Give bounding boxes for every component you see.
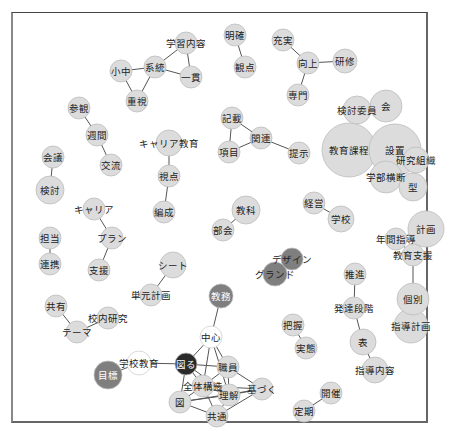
node-label: 開催 [321,388,341,399]
node-label: 理解 [219,390,239,401]
node-label: 関連 [251,133,271,144]
node-label: 職員 [218,362,238,373]
node-label: 系統 [145,62,165,73]
node-label: 教科 [236,205,256,216]
node-label: 参観 [69,103,89,114]
node-label: 一貫 [181,72,201,83]
node-label: 編成 [154,207,174,218]
node-label: 教育支援 [393,250,433,261]
node-label: 学校 [331,214,351,225]
node-label: 支援 [89,265,109,276]
node-label: 小中 [111,66,131,77]
node-label: 提示 [289,148,309,159]
node-label: キャリア [74,204,114,215]
node-label: 交流 [101,160,121,171]
node-label: 個別 [403,294,423,305]
node-label: 把握 [283,320,303,331]
node-label: 重視 [127,96,147,107]
node-label: 連携 [40,259,60,270]
node-label: 会議 [43,152,63,163]
node-label: 発達段階 [334,303,374,314]
node-label: 計画 [416,224,436,235]
node-label: 指導計画 [391,321,431,332]
node-label: キャリア教育 [139,138,199,149]
node-label: 週間 [87,130,107,141]
node-label: 教育課程 [329,145,369,156]
node-label: グランド [255,269,295,280]
node-label: 教務 [211,291,231,302]
node-label: 学校教育 [119,358,159,369]
node-label: 共通 [207,411,227,422]
node-label: 経営 [304,198,324,209]
node-label: 全体構造 [183,381,223,392]
node-label: 研究組織 [396,155,436,166]
node-label: 学部横断 [366,172,406,183]
node-label: 表 [358,337,368,348]
node-label: 推進 [345,269,365,280]
node-label: 検討委員 [337,105,377,116]
node-label: 定期 [294,406,314,417]
node-label: 学習内容 [166,38,206,49]
node-label: 担当 [40,233,60,244]
node-label: 実態 [296,343,316,354]
node-label: 向上 [298,58,318,69]
node-layer: 学習内容系統小中一貫重視明確観点充実向上研修専門参観週間交流会議検討キャリア教育… [36,24,444,427]
node-label: 視点 [159,171,179,182]
node-label: 部会 [213,225,233,236]
node-label: 指導内容 [355,365,395,376]
node-label: 共有 [46,301,66,312]
node-label: 専門 [288,90,308,101]
node-label: 項目 [219,147,239,158]
node-label: 中心 [201,332,221,343]
node-label: テーマ [62,327,92,338]
node-label: 図 [175,397,185,408]
co-occurrence-network: 学習内容系統小中一貫重視明確観点充実向上研修専門参観週間交流会議検討キャリア教育… [0,0,472,445]
node-label: 研修 [335,56,355,67]
node-label: シート [158,260,188,271]
node-label: 会 [381,101,391,112]
node-label: 校内研究 [88,313,128,324]
node-label: 基づく [247,384,277,395]
node-label: 図る [176,359,196,370]
node-label: 明確 [225,30,245,41]
node-label: プラン [97,233,127,244]
node-label: 記載 [222,113,242,124]
node-label: デザイン [272,254,312,265]
node-label: 目標 [98,370,118,381]
node-label: 単元計画 [131,290,171,301]
node-label: 型 [408,182,418,193]
node-label: 充実 [273,35,293,46]
node-label: 年間指導 [376,234,416,245]
node-label: 観点 [235,62,255,73]
node-label: 検討 [40,185,60,196]
